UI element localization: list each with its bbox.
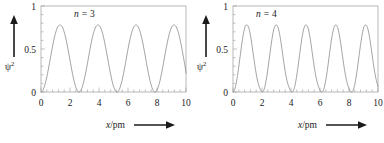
y-axis-ticks-n4	[233, 6, 237, 92]
chart-panel-n4: ψ2 0 0.5 1	[192, 0, 384, 143]
x-tick-label-0-n3: 0	[39, 98, 44, 108]
x-axis-ticks-n3	[41, 88, 186, 93]
x-tick-label-2-n3: 2	[68, 98, 73, 108]
x-tick-label-10-n3: 10	[181, 98, 191, 108]
x-tick-label-8-n4: 8	[347, 98, 352, 108]
plot-frame-n4	[233, 6, 378, 92]
figure-container: ψ2 0 0.5 1	[0, 0, 384, 143]
x-tick-label-2-n4: 2	[260, 98, 265, 108]
x-tick-label-0-n4: 0	[231, 98, 236, 108]
y-tick-label-0-n3: 0	[31, 88, 36, 98]
x-tick-label-10-n4: 10	[373, 98, 383, 108]
y-tick-label-1-n3: 1	[31, 2, 36, 12]
x-tick-label-8-n3: 8	[155, 98, 160, 108]
x-axis-label-n4: x/pm	[297, 120, 318, 130]
x-axis-ticks-n4	[233, 88, 378, 93]
y-axis-arrow-icon	[10, 15, 18, 57]
y-axis-ticks-n3	[41, 6, 45, 92]
y-axis-label-n3: ψ2	[5, 60, 14, 72]
plot-frame-n3	[41, 6, 186, 92]
x-tick-label-4-n4: 4	[289, 98, 294, 108]
x-tick-label-6-n3: 6	[126, 98, 131, 108]
x-axis-label-n3: x/pm	[105, 120, 126, 130]
curve-annotation-n4: n=4	[256, 9, 277, 19]
probability-density-curve-n3	[41, 25, 186, 92]
x-tick-label-4-n3: 4	[97, 98, 102, 108]
x-tick-label-6-n4: 6	[318, 98, 323, 108]
y-tick-label-0-n4: 0	[223, 88, 228, 98]
y-tick-label-1-n4: 1	[223, 2, 228, 12]
y-tick-label-half-n4: 0.5	[216, 45, 228, 55]
y-axis-arrow-icon	[202, 15, 210, 57]
x-axis-arrow-icon-n3	[134, 121, 175, 129]
probability-density-curve-n4	[233, 25, 378, 92]
y-axis-label-n4: ψ2	[197, 60, 206, 72]
y-tick-label-half-n3: 0.5	[24, 45, 36, 55]
chart-svg-n4: ψ2 0 0.5 1	[192, 0, 384, 143]
curve-annotation-n3: n=3	[74, 9, 95, 19]
chart-panel-n3: ψ2 0 0.5 1	[0, 0, 192, 143]
chart-svg-n3: ψ2 0 0.5 1	[0, 0, 192, 143]
x-axis-arrow-icon-n4	[326, 121, 367, 129]
